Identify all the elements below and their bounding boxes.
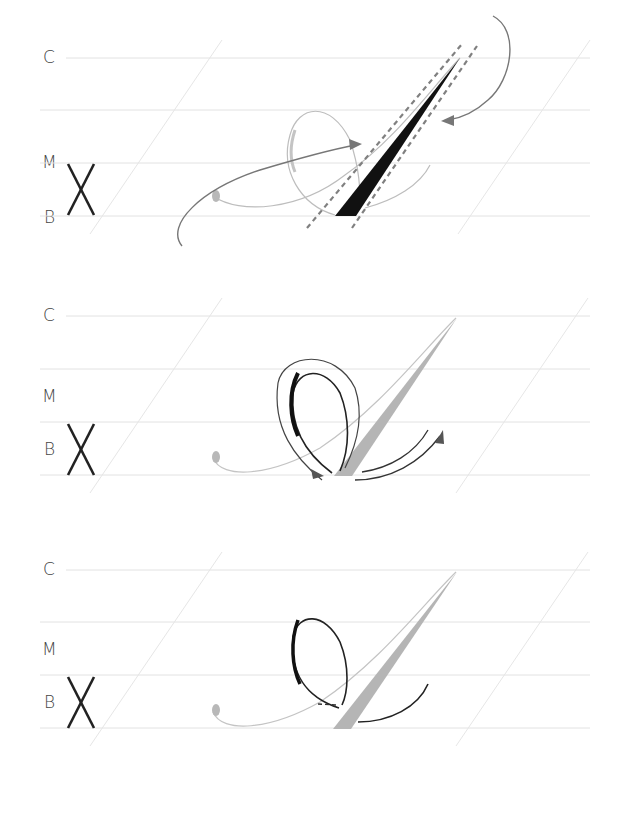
arrow-head-icon: [349, 139, 362, 150]
arrow-head-icon: [311, 469, 324, 479]
letter-diagram-2: [0, 258, 633, 518]
panel-step-2: C M B: [0, 258, 633, 518]
arrow-head-icon: [435, 430, 444, 444]
letter-diagram-3: [0, 512, 633, 772]
slant-marker-x-icon: [68, 424, 94, 475]
panel-step-1: C M B: [0, 0, 633, 260]
slant-marker-x-icon: [68, 164, 94, 215]
arrow-head-icon: [441, 115, 454, 126]
panel-step-3: C M B: [0, 512, 633, 772]
slant-lines: [90, 40, 590, 234]
letter-diagram-1: [0, 0, 633, 260]
guidelines: [40, 58, 590, 216]
slant-marker-x-icon: [68, 677, 94, 728]
